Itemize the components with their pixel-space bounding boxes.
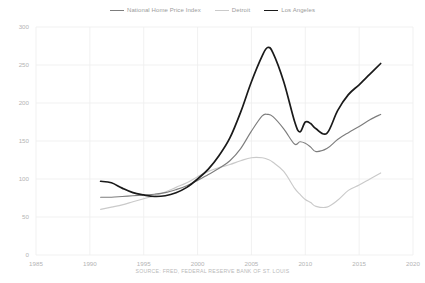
y-tick-label: 100 <box>19 175 30 182</box>
y-tick-label: 0 <box>26 251 30 258</box>
y-tick-label: 150 <box>19 137 30 144</box>
y-axis-tick-labels: 300250200150100500 <box>19 23 30 258</box>
y-tick-label: 250 <box>19 61 30 68</box>
source-note: SOURCE: FRED, FEDERAL RESERVE BANK OF ST… <box>0 268 425 274</box>
x-tick-label: 1995 <box>137 260 151 267</box>
y-tick-label: 200 <box>19 99 30 106</box>
series-line-los-angeles <box>101 47 381 196</box>
home-price-index-chart: National Home Price IndexDetroitLos Ange… <box>0 0 425 283</box>
series-lines <box>101 47 381 209</box>
gridlines <box>36 27 413 255</box>
x-tick-label: 1985 <box>29 260 43 267</box>
x-tick-label: 2000 <box>191 260 205 267</box>
series-line-detroit <box>101 157 381 209</box>
x-tick-label: 2005 <box>245 260 259 267</box>
x-axis-tick-labels: 19851990199520002005201020152020 <box>29 260 420 267</box>
x-tick-label: 1990 <box>83 260 97 267</box>
y-tick-label: 50 <box>22 213 29 220</box>
y-tick-label: 300 <box>19 23 30 30</box>
x-tick-label: 2020 <box>406 260 420 267</box>
x-tick-label: 2010 <box>298 260 312 267</box>
plot-area: 300250200150100500 198519901995200020052… <box>0 0 425 283</box>
x-tick-label: 2015 <box>352 260 366 267</box>
series-line-national-home-price-index <box>101 114 381 197</box>
